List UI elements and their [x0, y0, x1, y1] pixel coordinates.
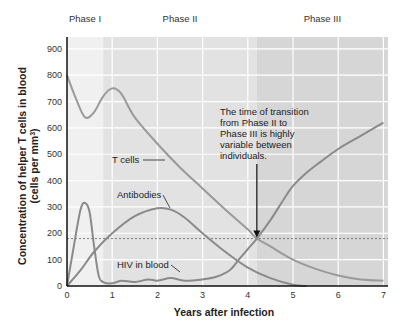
y-tick-label: 900	[47, 44, 62, 54]
label-antibodies: Antibodies	[117, 189, 162, 200]
phase-label-2: Phase II	[163, 13, 198, 24]
y-tick-label: 800	[47, 70, 62, 80]
x-tick-label: 2	[155, 290, 160, 300]
annotation-line: from Phase II to	[220, 117, 287, 128]
y-tick-label: 400	[47, 176, 62, 186]
y-tick-label: 0	[57, 281, 62, 291]
annotation-line: individuals.	[220, 150, 267, 161]
y-tick-label: 700	[47, 97, 62, 107]
label-t-cells: T cells	[112, 154, 140, 165]
hiv-progression-chart: 012345670100200300400500600700800900 Pha…	[0, 0, 405, 331]
x-tick-label: 7	[381, 290, 386, 300]
y-tick-label: 600	[47, 123, 62, 133]
y-tick-label: 500	[47, 149, 62, 159]
x-axis-title: Years after infection	[174, 306, 274, 318]
y-axis-title: Concentration of helper T cells in blood…	[16, 67, 40, 265]
x-tick-label: 3	[200, 290, 205, 300]
x-tick-label: 0	[64, 290, 69, 300]
label-hiv-in-blood: HIV in blood	[117, 259, 169, 270]
phase-label-3: Phase III	[304, 13, 342, 24]
annotation-line: Phase III is highly	[220, 128, 295, 139]
y-tick-label: 200	[47, 228, 62, 238]
x-tick-label: 1	[110, 290, 115, 300]
y-tick-label: 300	[47, 202, 62, 212]
x-tick-label: 4	[245, 290, 250, 300]
x-tick-label: 5	[290, 290, 295, 300]
annotation-line: variable between	[220, 139, 292, 150]
x-tick-label: 6	[336, 290, 341, 300]
phase-label-1: Phase I	[69, 13, 101, 24]
annotation-line: The time of transition	[220, 106, 309, 117]
y-tick-label: 100	[47, 255, 62, 265]
